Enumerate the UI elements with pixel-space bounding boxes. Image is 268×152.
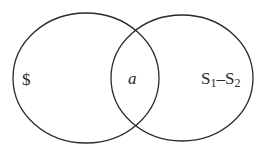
left-set-ellipse: [13, 13, 159, 143]
left-set-label: $: [22, 71, 31, 88]
right-label-sub2: 2: [234, 76, 240, 90]
intersection-label: a: [128, 70, 137, 87]
right-label-minus: –: [216, 69, 225, 88]
right-set-label: S1–S2: [201, 70, 240, 89]
